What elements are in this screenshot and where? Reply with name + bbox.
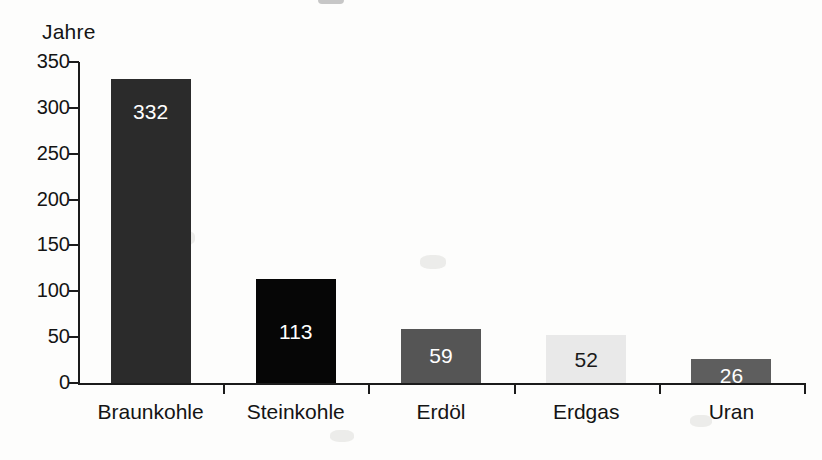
y-tick-label: 250 bbox=[37, 142, 70, 165]
y-tick-label: 150 bbox=[37, 233, 70, 256]
y-tick-mark bbox=[69, 153, 79, 155]
bar-value-label: 113 bbox=[256, 321, 336, 342]
bar-value-label: 332 bbox=[111, 101, 191, 122]
bar: 332 bbox=[111, 79, 191, 383]
y-axis-line bbox=[78, 62, 80, 383]
y-tick-label: 50 bbox=[48, 325, 70, 348]
scan-artifact bbox=[318, 0, 344, 4]
bar: 59 bbox=[401, 329, 481, 383]
y-tick-label: 100 bbox=[37, 279, 70, 302]
y-tick-mark bbox=[69, 199, 79, 201]
x-tick-mark bbox=[223, 383, 225, 394]
category-label: Erdgas bbox=[514, 400, 659, 424]
x-tick-mark bbox=[514, 383, 516, 394]
x-tick-mark bbox=[804, 383, 806, 394]
category-label: Steinkohle bbox=[223, 400, 368, 424]
y-tick-mark bbox=[69, 336, 79, 338]
bar: 113 bbox=[256, 279, 336, 383]
bar-value-label: 59 bbox=[401, 345, 481, 366]
bar: 52 bbox=[546, 335, 626, 383]
x-tick-mark bbox=[368, 383, 370, 394]
y-tick-label: 350 bbox=[37, 50, 70, 73]
y-tick-label: 200 bbox=[37, 188, 70, 211]
bar-value-label: 26 bbox=[691, 365, 771, 386]
chart-page: Jahre 050100150200250300350 332113595226… bbox=[0, 0, 822, 460]
y-tick-label: 0 bbox=[59, 371, 70, 394]
category-label: Braunkohle bbox=[78, 400, 223, 424]
bar-value-label: 52 bbox=[546, 349, 626, 370]
plot-area: 050100150200250300350 332113595226 bbox=[78, 62, 804, 383]
y-tick-mark bbox=[69, 382, 79, 384]
y-tick-mark bbox=[69, 244, 79, 246]
paper-speckle bbox=[330, 430, 354, 442]
y-tick-mark bbox=[69, 61, 79, 63]
y-tick-mark bbox=[69, 107, 79, 109]
category-label: Erdöl bbox=[368, 400, 513, 424]
category-label: Uran bbox=[659, 400, 804, 424]
y-tick-label: 300 bbox=[37, 96, 70, 119]
x-tick-mark bbox=[659, 383, 661, 394]
bar: 26 bbox=[691, 359, 771, 383]
y-tick-mark bbox=[69, 290, 79, 292]
y-axis-title: Jahre bbox=[42, 20, 96, 44]
